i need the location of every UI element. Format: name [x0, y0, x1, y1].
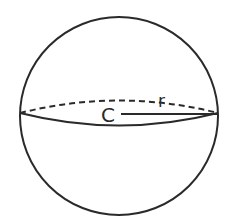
equator-back-dashed: [20, 101, 218, 114]
radius-label: r: [158, 91, 165, 111]
sphere-outline: [20, 17, 218, 215]
sphere-diagram: C r: [0, 0, 235, 223]
center-label: C: [101, 103, 115, 127]
